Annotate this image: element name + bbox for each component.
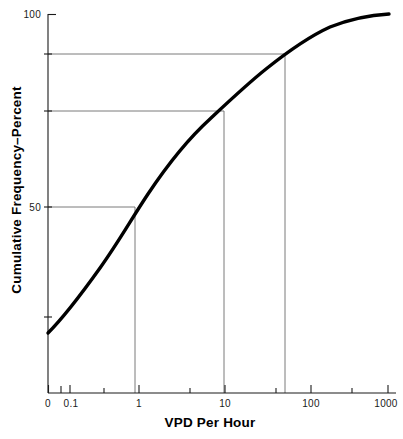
axis-lines: [48, 14, 396, 393]
y-axis-ticks: [44, 15, 56, 318]
reference-lines-vertical: [135, 54, 285, 393]
x-tick-label-0: 0: [45, 398, 51, 409]
cumulative-frequency-curve: [48, 14, 389, 333]
x-tick-label-100: 100: [302, 398, 320, 409]
x-tick-label-1: 1: [136, 398, 142, 409]
x-axis-title: VPD Per Hour: [165, 415, 256, 430]
x-axis-major-ticks: [49, 385, 389, 393]
x-tick-label-1000: 1000: [374, 398, 398, 409]
x-axis-minor-ticks: [61, 386, 352, 393]
y-tick-label-100: 100: [23, 9, 41, 20]
chart-figure: 100 50 0 0.1 1 10 100 1000 VPD Per Hour …: [0, 0, 403, 439]
reference-lines-horizontal: [48, 54, 285, 207]
y-axis-title: Cumulative Frequency–Percent: [9, 86, 24, 294]
cumulative-frequency-chart: 100 50 0 0.1 1 10 100 1000 VPD Per Hour …: [0, 0, 403, 439]
y-tick-label-50: 50: [29, 202, 41, 213]
x-tick-label-0-1: 0.1: [64, 398, 79, 409]
x-tick-label-10: 10: [219, 398, 231, 409]
